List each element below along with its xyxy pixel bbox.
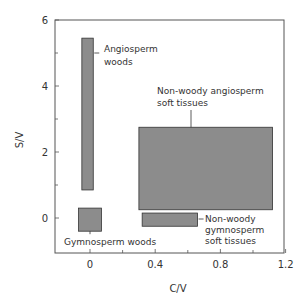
y-tick-label: 6 (42, 15, 48, 26)
chart: AngiospermwoodsGymnosperm woodsNon-woody… (0, 0, 305, 304)
annotation-label: Gymnosperm woods (64, 237, 156, 247)
y-axis: 0246 (42, 15, 59, 224)
x-axis-title: C/V (169, 283, 186, 294)
x-tick-label: 1.2 (278, 259, 294, 270)
range-rect (142, 213, 197, 226)
y-axis-title: S/V (14, 132, 25, 149)
annotation-label: soft tissues (157, 98, 208, 108)
annotation-label: Non-woody (205, 214, 256, 224)
data-rectangles (79, 38, 273, 231)
y-tick-label: 0 (42, 213, 48, 224)
annotation-label: woods (104, 57, 133, 67)
annotation-label: soft tissues (205, 236, 256, 246)
annotation-label: gymnosperm (205, 225, 264, 235)
y-tick-label: 4 (42, 81, 48, 92)
x-axis: 00.40.81.2 (87, 249, 294, 270)
x-tick-label: 0.8 (212, 259, 228, 270)
range-rect (139, 127, 273, 210)
range-rect (79, 208, 102, 231)
annotation-label: Angiosperm (104, 44, 158, 54)
annotation-label: Non-woody angiosperm (157, 86, 264, 96)
x-tick-label: 0 (87, 259, 93, 270)
x-tick-label: 0.4 (147, 259, 163, 270)
y-tick-label: 2 (42, 147, 48, 158)
range-rect (82, 38, 93, 190)
